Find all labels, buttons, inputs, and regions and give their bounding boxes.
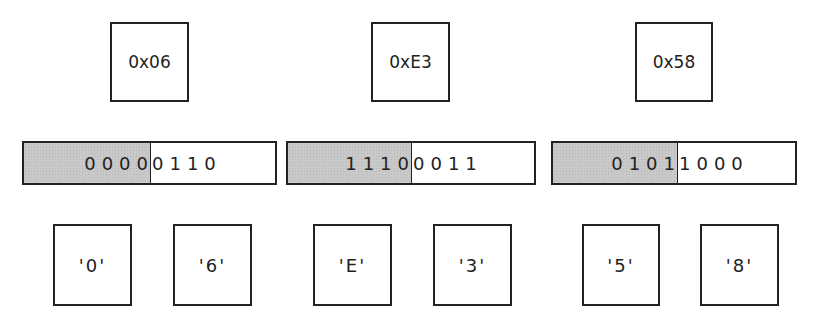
hex-label: 0x58 (653, 52, 696, 72)
hex-box-1: 0xE3 (371, 22, 450, 102)
hex-label: 0x06 (128, 52, 171, 72)
hex-box-0: 0x06 (110, 22, 189, 102)
high-nibble: 0000 (24, 143, 151, 183)
char-label: '0' (79, 255, 106, 276)
high-nibble-bits: 0101 (611, 153, 681, 174)
hex-box-2: 0x58 (635, 22, 713, 102)
low-nibble: 0110 (151, 143, 275, 183)
char-box-2-high: '5' (582, 224, 660, 306)
char-box-2-low: '8' (700, 224, 779, 306)
char-box-0-high: '0' (53, 224, 132, 306)
char-label: '3' (459, 255, 486, 276)
bit-bar-0: 0000 0110 (22, 141, 277, 185)
high-nibble: 0101 (553, 143, 678, 183)
low-nibble: 1000 (678, 143, 795, 183)
low-nibble: 0011 (412, 143, 534, 183)
high-nibble-bits: 1110 (345, 153, 415, 174)
high-nibble: 1110 (288, 143, 412, 183)
hex-label: 0xE3 (389, 52, 431, 72)
low-nibble-bits: 1000 (679, 153, 749, 174)
char-box-1-high: 'E' (313, 224, 392, 306)
bit-bar-2: 0101 1000 (551, 141, 797, 185)
high-nibble-bits: 0000 (84, 153, 154, 174)
char-box-1-low: '3' (433, 224, 512, 306)
char-label: '6' (199, 255, 226, 276)
low-nibble-bits: 0011 (413, 153, 483, 174)
bit-bar-1: 1110 0011 (286, 141, 536, 185)
char-label: '5' (607, 255, 634, 276)
char-label: '8' (726, 255, 753, 276)
low-nibble-bits: 0110 (152, 153, 222, 174)
char-label: 'E' (339, 255, 366, 276)
char-box-0-low: '6' (173, 224, 252, 306)
